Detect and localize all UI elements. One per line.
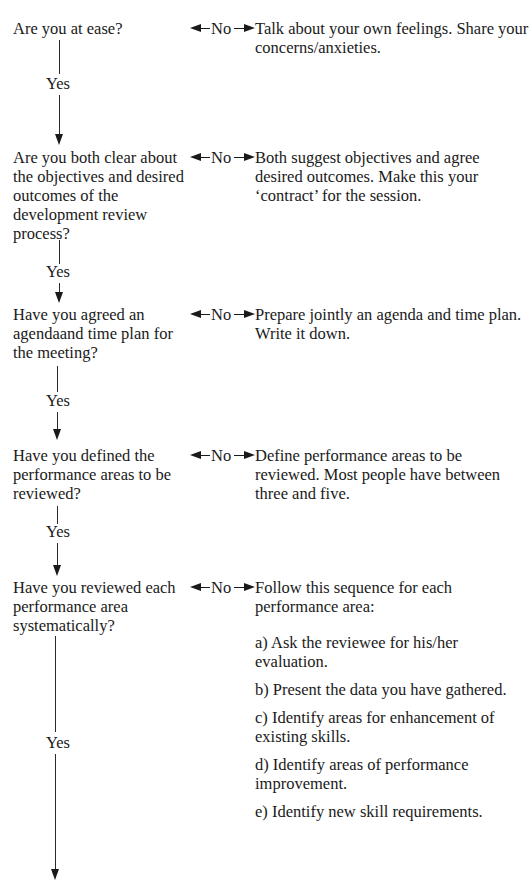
- question-3: Have you agreed an agendaand time plan f…: [13, 305, 191, 362]
- answer-2: Both suggest objectives and agree desire…: [255, 148, 495, 205]
- arrow-right-icon: [244, 24, 255, 32]
- no-connector-4: No: [190, 446, 256, 465]
- arrow-right-icon: [244, 451, 255, 459]
- connector-line: [234, 28, 244, 29]
- answer-text: Talk about your own feelings. Share your…: [255, 19, 530, 57]
- no-label: No: [211, 19, 231, 38]
- answer-1: Talk about your own feelings. Share your…: [255, 19, 530, 57]
- answer-item-c: c) Identify areas for enhancement of exi…: [255, 708, 510, 746]
- answer-item-e: e) Identify new skill requirements.: [255, 802, 515, 821]
- answer-item-b: b) Present the data you have gathered.: [255, 680, 515, 699]
- question-5: Have you reviewed each performance area …: [13, 578, 191, 635]
- connector-line: [200, 455, 210, 456]
- yes-line: [57, 412, 58, 430]
- connector-line: [200, 587, 210, 588]
- arrow-down-icon: [51, 869, 59, 880]
- answer-4: Define performance areas to be reviewed.…: [255, 446, 505, 503]
- yes-line: [55, 636, 56, 732]
- yes-label-5: Yes: [46, 733, 70, 752]
- answer-5: Follow this sequence for each performanc…: [255, 578, 515, 821]
- answer-text: Define performance areas to be reviewed.…: [255, 446, 505, 503]
- no-connector-3: No: [190, 305, 256, 324]
- yes-line: [59, 95, 60, 135]
- yes-label-1: Yes: [46, 74, 70, 93]
- connector-line: [234, 314, 244, 315]
- no-connector-5: No: [190, 578, 256, 597]
- connector-line: [234, 587, 244, 588]
- question-1: Are you at ease?: [13, 19, 183, 38]
- no-label: No: [211, 578, 231, 597]
- connector-line: [200, 28, 210, 29]
- connector-line: [234, 157, 244, 158]
- answer-text: Both suggest objectives and agree desire…: [255, 148, 495, 205]
- arrow-right-icon: [244, 153, 255, 161]
- no-connector-1: No: [190, 19, 256, 38]
- arrow-right-icon: [244, 583, 255, 591]
- connector-line: [200, 157, 210, 158]
- yes-line: [55, 754, 56, 870]
- no-connector-2: No: [190, 148, 256, 167]
- yes-label-4: Yes: [46, 522, 70, 541]
- answer-intro: Follow this sequence for each performanc…: [255, 578, 470, 616]
- answer-item-d: d) Identify areas of performance improve…: [255, 755, 485, 793]
- yes-line: [57, 543, 58, 566]
- yes-label-3: Yes: [46, 391, 70, 410]
- connector-line: [200, 314, 210, 315]
- arrow-down-icon: [53, 565, 61, 576]
- yes-line: [59, 40, 60, 74]
- no-label: No: [211, 446, 231, 465]
- question-4: Have you defined the performance areas t…: [13, 446, 191, 503]
- answer-3: Prepare jointly an agenda and time plan.…: [255, 305, 530, 343]
- answer-text: Prepare jointly an agenda and time plan.…: [255, 305, 530, 343]
- connector-line: [234, 455, 244, 456]
- answer-item-a: a) Ask the reviewee for his/her evaluati…: [255, 633, 475, 671]
- yes-line: [57, 366, 58, 392]
- question-2: Are you both clear about the objectives …: [13, 148, 193, 243]
- arrow-down-icon: [55, 292, 63, 303]
- yes-line: [59, 240, 60, 264]
- no-label: No: [211, 305, 231, 324]
- no-label: No: [211, 148, 231, 167]
- arrow-right-icon: [244, 310, 255, 318]
- arrow-down-icon: [55, 134, 63, 145]
- yes-label-2: Yes: [46, 262, 70, 281]
- arrow-down-icon: [53, 429, 61, 440]
